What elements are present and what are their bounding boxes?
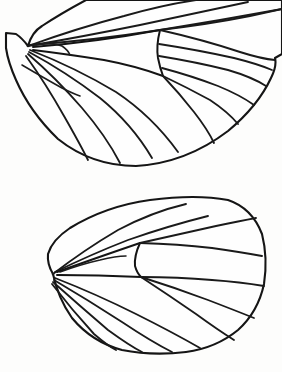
wing-venation-figure	[0, 0, 282, 372]
venation-drawing-canvas	[0, 0, 282, 372]
